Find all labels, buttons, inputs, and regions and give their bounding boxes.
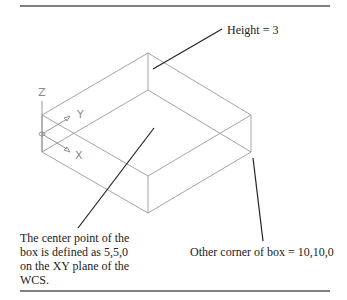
x-axis-label: X: [75, 150, 83, 161]
center-point-line-4: WCS.: [20, 273, 129, 287]
height-annotation: Height = 3: [227, 23, 278, 37]
center-point-line-1: The center point of the: [20, 231, 129, 245]
y-axis-line: [42, 119, 67, 134]
leader-lines: [78, 29, 263, 241]
z-axis-label: Z: [38, 87, 46, 98]
other-corner-leader: [253, 158, 263, 241]
box-definition-diagram: Z Y X Height = 3 The center point of the…: [0, 0, 347, 300]
box-wireframe: [42, 53, 251, 213]
center-point-line-3: on the XY plane of the: [20, 259, 129, 273]
x-axis-line: [42, 134, 67, 149]
center-point-leader: [78, 128, 154, 228]
center-point-line-2: box is defined as 5,5,0: [20, 245, 129, 259]
other-corner-annotation: Other corner of box = 10,10,0: [190, 245, 334, 259]
center-point-annotation: The center point of the box is defined a…: [20, 231, 129, 287]
y-axis-label: Y: [77, 109, 84, 120]
height-leader: [153, 29, 222, 69]
